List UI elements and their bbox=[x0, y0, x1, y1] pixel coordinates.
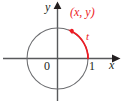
terminal-point-label: (x, y) bbox=[70, 6, 95, 18]
y-axis-arrowhead bbox=[54, 2, 62, 10]
terminal-point-dot bbox=[70, 29, 74, 33]
unit-circle-figure: y x 0 1 (x, y) t bbox=[0, 0, 123, 106]
x-axis-label: x bbox=[109, 59, 114, 71]
origin-label: 0 bbox=[44, 60, 50, 72]
arc-length-label: t bbox=[86, 31, 89, 42]
figure-canvas bbox=[0, 0, 123, 106]
x-tick-label-one: 1 bbox=[89, 60, 95, 72]
y-axis-label: y bbox=[45, 1, 50, 13]
